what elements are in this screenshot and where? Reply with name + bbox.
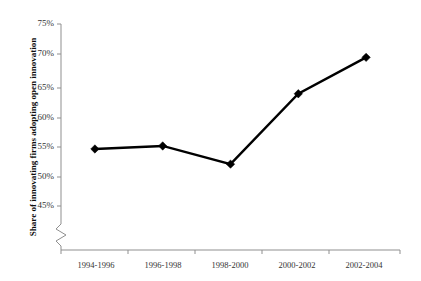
data-point-marker bbox=[159, 142, 167, 150]
y-tick-label-65: 65% bbox=[38, 82, 55, 92]
y-tick-label-55: 55% bbox=[38, 141, 55, 151]
data-point-marker bbox=[91, 145, 99, 153]
x-tick-label-0: 1994-1996 bbox=[78, 260, 115, 270]
x-tick-label-2: 1998-2000 bbox=[212, 260, 249, 270]
x-tick-label-3: 2000-2002 bbox=[279, 260, 316, 270]
series-markers bbox=[91, 53, 371, 168]
y-tick-label-50: 50% bbox=[38, 171, 55, 181]
series-group bbox=[91, 53, 371, 168]
line-chart: Share of innovating firms adopting open … bbox=[0, 0, 421, 281]
x-tick-label-1: 1996-1998 bbox=[145, 260, 182, 270]
y-tick-label-75: 75% bbox=[38, 18, 55, 28]
y-tick-label-45: 45% bbox=[38, 200, 55, 210]
y-axis-title: Share of innovating firms adopting open … bbox=[28, 38, 38, 236]
chart-container: Share of innovating firms adopting open … bbox=[0, 0, 421, 281]
x-tick-label-4: 2002-2004 bbox=[346, 260, 384, 270]
y-tick-label-60: 60% bbox=[38, 112, 55, 122]
series-line-open-innovation bbox=[95, 57, 366, 164]
y-axis-break-icon bbox=[56, 224, 66, 246]
y-tick-label-70: 70% bbox=[38, 48, 55, 58]
